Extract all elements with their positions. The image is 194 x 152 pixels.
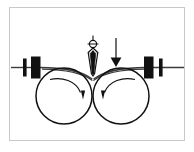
left-guide-blocks: [23, 57, 41, 79]
right-guide-blocks: [144, 57, 163, 79]
left-roller: [36, 68, 92, 124]
right-roller: [93, 68, 149, 124]
nip-roller-diagram: [0, 0, 194, 152]
force-arrow-down: [111, 38, 122, 67]
wedge-needle: [88, 36, 99, 77]
figure-root: Nip roller wedge insertion diagram left …: [0, 0, 194, 152]
